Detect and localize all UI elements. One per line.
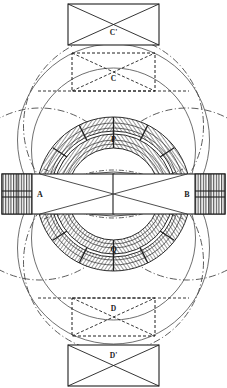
d-prime-label: D' — [110, 351, 118, 360]
c-label: C — [111, 74, 116, 83]
lower-winding-label: Q — [110, 245, 116, 254]
pole-piece-c-prime[interactable]: C' — [68, 4, 159, 45]
left-terminal-block[interactable]: A — [2, 174, 114, 214]
c-prime-label: C' — [110, 28, 118, 37]
left-terminal-label: A — [37, 190, 43, 199]
right-terminal-block[interactable]: B — [113, 174, 225, 214]
diagram-svg: A B C' C — [0, 0, 227, 388]
upper-winding-label: P — [111, 135, 116, 144]
d-label: D — [111, 304, 117, 313]
figure-canvas: A B C' C — [0, 0, 227, 388]
right-terminal-label: B — [184, 190, 190, 199]
pole-piece-d-prime[interactable]: D' — [68, 345, 159, 386]
